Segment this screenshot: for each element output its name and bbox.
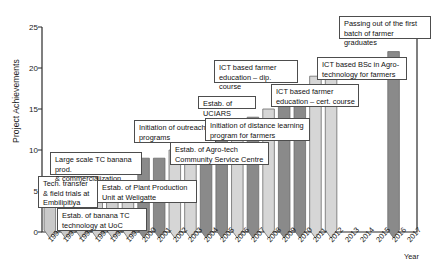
x-axis-title: Year [404,252,419,261]
callout-plant-production: Estab. of Plant Production Unit at Welig… [97,180,197,203]
callout-agro-tech-centre: Estab. of Agro-tech Community Service Ce… [170,142,269,165]
callout-distance-learning: Initiation of distance learning program … [205,118,310,141]
project-achievements-chart: Project Achievements 0 5 10 15 20 25 199… [0,0,432,273]
callout-large-scale-tc: Large scale TC banana prod. & commercial… [50,152,142,175]
callout-outreach-programs: Initiation of outreach programs [134,120,216,143]
callout-uciars: Estab. of UCIARS [198,96,256,109]
callout-dip-course: ICT based farmer education – dip. course [214,60,298,83]
callout-bsc-agro-tech: ICT based BSc in Agro- technology for fa… [317,57,407,80]
callout-banana-tc: Estab. of banana TC technology at UoC [57,208,147,231]
callout-farmer-graduates: Passing out of the first batch of farmer… [339,16,431,39]
callout-cert-course: ICT based farmer education – cert. cours… [271,84,359,107]
